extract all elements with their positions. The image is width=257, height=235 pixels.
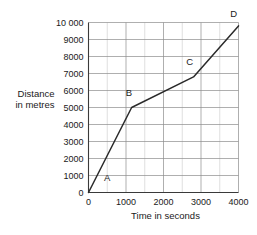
x-axis-title: Time in seconds bbox=[131, 210, 200, 221]
point-label-d: D bbox=[230, 8, 237, 19]
y-tick-label: 4000 bbox=[63, 120, 83, 130]
x-tick-label: 3000 bbox=[191, 197, 211, 207]
x-tick-label: 1000 bbox=[116, 197, 136, 207]
y-tick-label: 2000 bbox=[63, 154, 83, 164]
y-tick-label: 3000 bbox=[63, 137, 83, 147]
x-tick-label: 2000 bbox=[153, 197, 173, 207]
x-tick-label: 0 bbox=[86, 197, 91, 207]
point-label-b: B bbox=[126, 87, 132, 98]
y-tick-label: 7000 bbox=[63, 69, 83, 79]
point-label-c: C bbox=[186, 56, 193, 67]
y-tick-label: 10 000 bbox=[56, 18, 84, 28]
chart-canvas: 010002000300040005000600070008000900010 … bbox=[0, 0, 257, 235]
y-axis-title-line1: Distance bbox=[18, 88, 55, 99]
y-axis-title-line2: in metres bbox=[15, 99, 54, 110]
distance-time-chart: 010002000300040005000600070008000900010 … bbox=[0, 0, 257, 235]
y-tick-label: 8000 bbox=[63, 52, 83, 62]
y-tick-label: 0 bbox=[78, 188, 83, 198]
x-tick-label: 4000 bbox=[228, 197, 248, 207]
point-label-a: A bbox=[104, 172, 111, 183]
y-tick-label: 6000 bbox=[63, 86, 83, 96]
y-tick-label: 9000 bbox=[63, 35, 83, 45]
y-tick-label: 1000 bbox=[63, 171, 83, 181]
y-tick-label: 5000 bbox=[63, 103, 83, 113]
